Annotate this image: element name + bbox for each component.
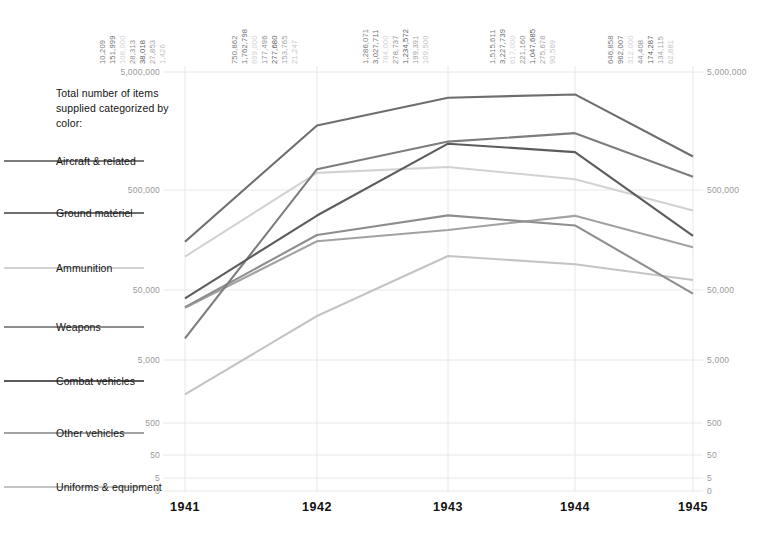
y-axis-right: 5,000,000500,00050,0005,0005005050 (707, 66, 776, 492)
y-tick-label: 5 (155, 473, 160, 483)
y-tick-label: 50,000 (133, 285, 160, 295)
value-label: 962,007 (616, 36, 625, 65)
value-label: 1,047,685 (528, 29, 537, 64)
x-axis-label-1943: 1943 (433, 500, 463, 514)
y-tick-label: 500 (145, 418, 160, 428)
y-tick-label: 500,000 (707, 185, 739, 195)
value-label: 62,881 (666, 40, 675, 64)
value-label: 21,247 (290, 40, 299, 64)
value-label: 750,862 (230, 36, 239, 65)
value-label: 3,227,739 (498, 29, 507, 64)
x-axis-label-1944: 1944 (560, 500, 590, 514)
value-label: 38,018 (138, 40, 147, 64)
plot-area (163, 66, 703, 492)
value-label: 1,286,071 (361, 29, 370, 64)
y-tick-label: 0 (707, 486, 712, 496)
data-value-labels: 10,209151,999108,00028,31338,01827,8531,… (0, 0, 776, 66)
value-label: 151,999 (108, 36, 117, 65)
value-label: 1,515,611 (488, 29, 497, 64)
value-label: 617,000 (508, 36, 517, 65)
value-label: 1,426 (158, 44, 167, 64)
series-line-other-vehicles (185, 216, 693, 308)
chart-page: Total number of items supplied categoriz… (0, 0, 776, 533)
x-axis-label-1941: 1941 (170, 500, 200, 514)
y-tick-label: 50 (707, 450, 717, 460)
line-chart-svg (163, 66, 703, 492)
y-tick-label: 50 (150, 450, 160, 460)
value-label: 10,209 (98, 40, 107, 64)
value-label: 27,853 (148, 40, 157, 64)
y-tick-label: 500,000 (128, 185, 160, 195)
value-label: 134,115 (656, 36, 665, 64)
y-tick-label: 5 (707, 473, 712, 483)
y-tick-label: 0 (155, 486, 160, 496)
value-label: 221,160 (518, 36, 527, 65)
value-label: 784,000 (381, 36, 390, 65)
y-tick-label: 5,000 (707, 355, 729, 365)
value-label: 1,762,798 (240, 29, 249, 64)
series-line-ammunition (185, 167, 693, 257)
value-label: 177,496 (260, 36, 269, 65)
value-label: 174,287 (646, 36, 655, 65)
value-label: 199,391 (411, 36, 420, 65)
value-label: 278,737 (391, 36, 400, 65)
value-label: 275,678 (538, 36, 547, 65)
y-tick-label: 5,000 (138, 355, 160, 365)
value-label: 28,313 (128, 40, 137, 64)
value-label: 646,858 (606, 36, 615, 65)
value-label: 44,408 (636, 40, 645, 64)
value-label: 699,000 (250, 36, 259, 65)
x-axis-label-1945: 1945 (678, 500, 708, 514)
value-label: 153,765 (280, 36, 289, 65)
series-line-aircraft-related (185, 133, 693, 338)
value-label: 312,000 (626, 36, 635, 65)
y-tick-label: 500 (707, 418, 722, 428)
value-label: 3,027,711 (371, 29, 380, 64)
x-axis-label-1942: 1942 (302, 500, 332, 514)
y-tick-label: 5,000,000 (707, 67, 747, 77)
series-line-uniforms-equipment (185, 256, 693, 394)
y-tick-label: 5,000,000 (120, 67, 160, 77)
y-tick-label: 50,000 (707, 285, 734, 295)
y-axis-left: 5,000,000500,00050,0005,0005005050 (88, 66, 160, 492)
value-label: 1,234,572 (401, 29, 410, 64)
value-label: 108,000 (118, 36, 127, 65)
series-line-weapons (185, 215, 693, 307)
value-label: 90,569 (548, 40, 557, 64)
value-label: 109,500 (421, 36, 430, 65)
value-label: 277,680 (270, 36, 279, 65)
